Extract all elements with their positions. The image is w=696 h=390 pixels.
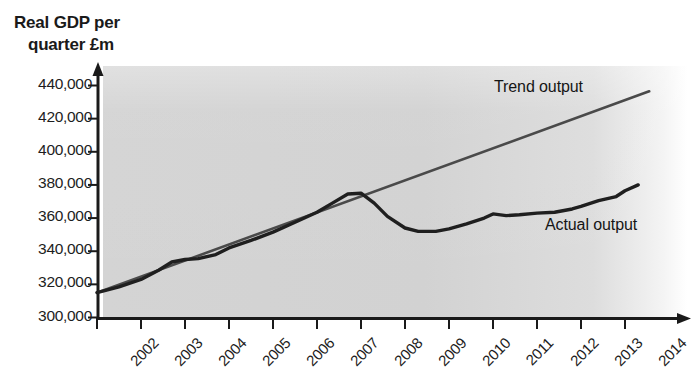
chart-canvas xyxy=(0,0,696,390)
y-axis-tick-label: 380,000 xyxy=(6,174,92,192)
y-axis-tick-label: 300,000 xyxy=(6,307,92,325)
gdp-output-gap-chart: Real GDP per quarter £m 440,000420,00040… xyxy=(0,0,696,390)
y-axis xyxy=(93,62,104,318)
actual-output-label: Actual output xyxy=(545,216,637,234)
y-axis-tick-label: 320,000 xyxy=(6,273,92,291)
y-axis-arrow-icon xyxy=(93,62,104,76)
y-axis-tick-label: 400,000 xyxy=(6,141,92,159)
y-axis-tick-label: 360,000 xyxy=(6,207,92,225)
y-axis-tick-labels: 440,000420,000400,000380,000360,000340,0… xyxy=(0,0,92,390)
trend-output-label: Trend output xyxy=(494,78,583,96)
y-axis-tick-label: 340,000 xyxy=(6,240,92,258)
y-axis-tick-label: 440,000 xyxy=(6,75,92,93)
y-axis-tick-label: 420,000 xyxy=(6,108,92,126)
plot-background-sheen xyxy=(103,66,687,318)
